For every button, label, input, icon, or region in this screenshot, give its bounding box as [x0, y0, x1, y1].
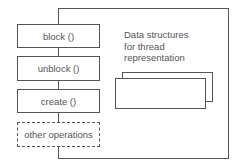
- operation-label: other operations: [24, 129, 93, 140]
- frame-right-line: [228, 8, 229, 159]
- operation-create: create (): [17, 89, 100, 113]
- operation-label: block (): [43, 31, 74, 42]
- frame-bottom-line: [58, 158, 229, 159]
- operation-label: create (): [41, 96, 76, 107]
- data-structures-label: Data structures for thread representatio…: [124, 29, 188, 64]
- connector-unblock-create: [58, 80, 59, 89]
- connector-block-unblock: [58, 47, 59, 56]
- data-structure-front: [115, 78, 206, 109]
- connector-create-other: [58, 112, 59, 122]
- frame-left-bottom-line: [58, 146, 59, 159]
- frame-left-top-line: [58, 8, 59, 24]
- frame-top-line: [58, 8, 229, 9]
- operation-label: unblock (): [38, 63, 80, 74]
- operation-block: block (): [17, 24, 100, 48]
- operation-other: other operations: [17, 122, 100, 147]
- operation-unblock: unblock (): [17, 56, 100, 81]
